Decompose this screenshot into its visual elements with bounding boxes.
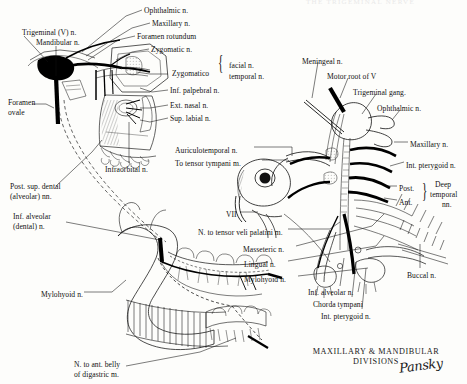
label-int-pterygoid-n-bottom: Int. pterygoid n.	[321, 312, 371, 321]
label-digastric-line2: of digastric m.	[74, 370, 119, 379]
label-chorda-tympani: Chorda tympani	[313, 300, 363, 309]
label-n-tensor-veli-palatini: N. to tensor veli palatini m.	[198, 228, 283, 237]
label-zygomaticotemporal-n: temporal n.	[229, 72, 264, 81]
label-post-sup-dental-line1: Post. sup. dental	[10, 182, 61, 191]
label-zygomaticofacial-n: facial n.	[229, 61, 254, 70]
label-deep-temporal-line3: nn.	[442, 200, 452, 209]
label-deep-temporal-line2: temporal	[430, 190, 457, 199]
label-sup-labial-n: Sup. labial n.	[170, 114, 211, 123]
label-meningeal-n: Meningeal n.	[302, 57, 343, 66]
label-auriculotemporal-n: Auriculotemporal n.	[175, 146, 238, 155]
skull-outline	[28, 44, 168, 168]
anatomical-line-art	[0, 0, 467, 384]
label-maxillary-n: Maxillary n.	[152, 19, 190, 28]
label-zygomatico: Zygomatico	[172, 69, 209, 78]
label-ophthalmic-n-right: Ophthalmic n.	[377, 104, 421, 113]
label-masseteric-n: Masseteric n.	[243, 245, 284, 254]
label-trigeminal-gang: Trigeminal gang.	[353, 88, 406, 97]
label-foramen-ovale-line2: ovale	[8, 108, 25, 117]
label-zygomatic-n: Zygomatic n.	[151, 45, 192, 54]
label-deep-temporal-line1: Deep	[435, 180, 451, 189]
label-foramen-rotundum: Foramen rotundum	[137, 32, 196, 41]
label-post-branch: Post.	[399, 184, 414, 193]
label-int-pterygoid-n-top: Int. pterygoid n.	[406, 161, 456, 170]
label-inf-alveolar-line1: Inf. alveolar	[13, 212, 51, 221]
label-maxillary-n-right: Maxillary n.	[410, 140, 448, 149]
top-running-header: THE TRIGEMINAL NERVE	[306, 0, 415, 6]
mandible-nerve-trunks	[158, 238, 282, 348]
label-mylohyoid-n-right: Mylohyoid n.	[244, 275, 286, 284]
label-foramen-ovale-line1: Foramen	[8, 98, 35, 107]
label-infraorbital-n: Infraorbital n.	[105, 165, 148, 174]
label-motor-root-of-v: Motor root of V	[327, 72, 376, 81]
label-lingual-n: Lingual n.	[244, 260, 276, 269]
label-ant-branch: Ant.	[399, 198, 413, 207]
label-trigeminal-v-n: Trigeminal (V) n.	[22, 28, 76, 37]
label-ext-nasal-n: Ext. nasal n.	[170, 101, 208, 110]
label-vii: VII	[226, 210, 237, 219]
label-inf-alveolar-n-right: Inf. alveolar n.	[308, 288, 354, 297]
label-ophthalmic-n: Ophthalmic n.	[144, 6, 188, 15]
zygomatico-brace: {	[218, 52, 223, 72]
label-mandibular-n: Mandibular n.	[36, 38, 80, 47]
label-digastric-line1: N. to ant. belly	[74, 360, 120, 369]
label-post-sup-dental-line2: (alveolar) nn.	[10, 192, 52, 201]
label-buccal-n: Buccal n.	[407, 271, 436, 280]
figure-canvas: THE TRIGEMINAL NERVE	[0, 0, 467, 384]
deep-temporal-brace: }	[422, 180, 427, 200]
label-to-tensor-tympani-m: To tensor tympani m.	[175, 159, 241, 168]
left-nerve-trunks	[37, 40, 150, 124]
label-inf-palpebral-n: Inf. palpebral n.	[170, 86, 219, 95]
label-mylohyoid-n-left: Mylohyoid n.	[41, 290, 83, 299]
label-inf-alveolar-line2: (dental) n.	[13, 222, 45, 231]
